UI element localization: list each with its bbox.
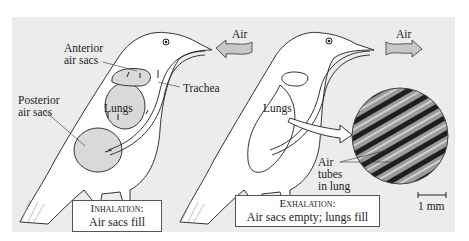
posterior-air-sacs-label: Posterior air sacs	[18, 94, 60, 118]
anterior-air-sacs-label: Anterior air sacs	[64, 42, 103, 66]
right-air-label: Air	[396, 28, 411, 40]
label-line: Posterior	[18, 94, 60, 106]
label-line: Air	[318, 156, 350, 168]
caption-text: Air sacs empty; lungs fill	[236, 210, 379, 224]
caption-title: Exhalation:	[236, 196, 379, 210]
trachea-label: Trachea	[183, 82, 220, 94]
left-air-label: Air	[232, 28, 247, 40]
label-line: in lung	[318, 180, 350, 192]
air-tubes-label: Air tubes in lung	[318, 156, 350, 192]
label-line: tubes	[318, 168, 350, 180]
caption-title: Inhalation:	[73, 201, 161, 215]
inhalation-caption: Inhalation: Air sacs fill	[72, 200, 162, 232]
label-line: air sacs	[64, 54, 103, 66]
right-lungs-label: Lungs	[263, 102, 292, 114]
exhalation-caption: Exhalation: Air sacs empty; lungs fill	[235, 195, 380, 227]
label-line: air sacs	[18, 106, 60, 118]
caption-text: Air sacs fill	[73, 215, 161, 229]
left-lungs-label: Lungs	[104, 102, 133, 114]
scale-bar-label: 1 mm	[418, 200, 445, 212]
label-line: Anterior	[64, 42, 103, 54]
